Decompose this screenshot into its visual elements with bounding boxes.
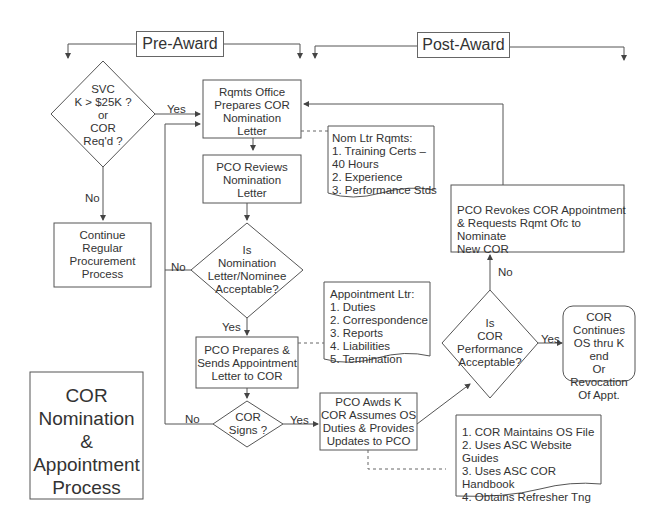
cor-signs-decision: COR Signs ? — [217, 411, 279, 437]
pco-reviews: PCO Reviews Nomination Letter — [203, 161, 301, 200]
nomination-no-label: No — [171, 261, 186, 273]
svc-decision: SVC K > $25K ? or COR Req'd ? — [63, 83, 143, 148]
continue-regular-process: Continue Regular Procurement Process — [54, 229, 151, 281]
nomination-acceptable-decision: Is Nomination Letter/Nominee Acceptable? — [195, 244, 299, 296]
nomination-yes-label: Yes — [222, 321, 241, 333]
pre-award-header: Pre-Award — [136, 31, 224, 57]
signs-yes-label: Yes — [290, 414, 309, 426]
pco-awards-contract: PCO Awds K COR Assumes OS Duties & Provi… — [320, 396, 417, 448]
nom-ltr-requirements-doc: Nom Ltr Rqmts: 1. Training Certs – 40 Ho… — [332, 132, 437, 197]
performance-no-label: No — [498, 266, 513, 278]
appointment-ltr-doc: Appointment Ltr: 1. Duties 2. Correspond… — [330, 288, 435, 366]
signs-no-label: No — [185, 413, 200, 425]
performance-yes-label: Yes — [541, 333, 560, 345]
cor-continues: COR Continues OS thru K end Or Revocatio… — [563, 311, 635, 402]
pco-revokes: PCO Revokes COR Appointment & Requests R… — [457, 204, 627, 256]
post-award-header: Post-Award — [417, 32, 510, 58]
pco-prepares-appointment: PCO Prepares & Sends Appointment Letter … — [196, 344, 298, 383]
svc-yes-label: Yes — [167, 103, 186, 115]
process-title: COR Nomination & Appointment Process — [30, 384, 143, 499]
performance-acceptable-decision: Is COR Performance Acceptable? — [446, 317, 534, 369]
rqmts-office-prepares: Rqmts Office Prepares COR Nomination Let… — [203, 86, 301, 138]
svc-no-label: No — [85, 192, 100, 204]
cor-duties-doc: 1. COR Maintains OS File 2. Uses ASC Web… — [462, 426, 607, 504]
